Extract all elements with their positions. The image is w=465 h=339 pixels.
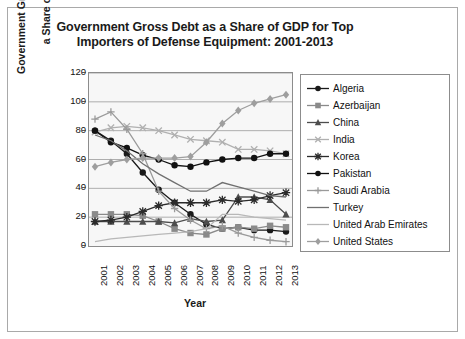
legend-marker-icon	[305, 168, 331, 179]
legend-item-label: Algeria	[333, 83, 364, 94]
legend-item-united-arab-emirates[interactable]: United Arab Emirates	[305, 216, 449, 233]
legend-item-pakistan[interactable]: Pakistan	[305, 165, 449, 182]
y-axis-title: Government Gross Debt as a Share of GDP	[22, 0, 46, 86]
chart-title-line-1: Government Gross Debt as a Share of GDP …	[40, 20, 370, 35]
legend-marker-icon	[305, 202, 331, 213]
data-series	[92, 91, 289, 171]
legend-item-united-states[interactable]: United States	[305, 233, 449, 250]
x-axis-tick-label: 2011	[257, 266, 268, 286]
x-axis-tick-label: 2009	[225, 265, 236, 286]
data-series	[91, 108, 289, 245]
x-axis-tick-label: 2013	[289, 265, 300, 286]
y-axis-tick-mark	[82, 159, 86, 160]
legend-marker-icon	[305, 219, 331, 230]
legend-item-china[interactable]: China	[305, 114, 449, 131]
y-axis-tick-label: 60	[60, 153, 86, 164]
legend-item-label: Saudi Arabia	[333, 185, 390, 196]
y-axis-ticks: 020406080100120	[54, 72, 86, 247]
plot-area-wrapper	[88, 72, 293, 247]
data-series	[92, 123, 289, 157]
y-axis-title-line-1: Government Gross Debt as	[15, 0, 28, 86]
legend-item-label: Azerbaijan	[333, 100, 380, 111]
legend-marker-icon	[305, 134, 331, 145]
legend-item-label: Pakistan	[333, 168, 371, 179]
chart-title-line-2: Importers of Defense Equipment: 2001-201…	[40, 35, 370, 50]
legend-item-turkey[interactable]: Turkey	[305, 199, 449, 216]
plot-area	[88, 72, 293, 247]
legend-item-algeria[interactable]: Algeria	[305, 80, 449, 97]
x-axis-tick-label: 2008	[209, 265, 220, 286]
chart-title: Government Gross Debt as a Share of GDP …	[40, 20, 370, 50]
chart-legend: AlgeriaAzerbaijanChinaIndiaKoreaPakistan…	[300, 74, 450, 252]
legend-item-azerbaijan[interactable]: Azerbaijan	[305, 97, 449, 114]
y-axis-tick-mark	[82, 216, 86, 217]
y-axis-tick-mark	[82, 187, 86, 188]
x-axis-tick-label: 2003	[130, 265, 141, 286]
x-axis-tick-label: 2006	[178, 265, 189, 286]
legend-item-korea[interactable]: Korea	[305, 148, 449, 165]
legend-marker-icon	[305, 117, 331, 128]
x-axis-tick-label: 2001	[98, 265, 109, 286]
legend-marker-icon	[305, 185, 331, 196]
legend-item-india[interactable]: India	[305, 131, 449, 148]
y-axis-tick-mark	[82, 245, 86, 246]
legend-item-label: Korea	[333, 151, 360, 162]
y-axis-title-line-2: a Share of GDP	[40, 0, 53, 86]
y-axis-tick-mark	[82, 101, 86, 102]
legend-marker-icon	[305, 236, 331, 247]
legend-item-label: Turkey	[333, 202, 363, 213]
y-axis-tick-mark	[82, 130, 86, 131]
y-axis-tick-mark	[82, 72, 86, 73]
x-axis-tick-label: 2012	[273, 265, 284, 286]
x-axis-title: Year	[100, 297, 290, 309]
legend-item-label: India	[333, 134, 355, 145]
legend-item-label: United Arab Emirates	[333, 219, 428, 230]
data-series-layer	[89, 73, 292, 246]
legend-marker-icon	[305, 100, 331, 111]
legend-item-label: United States	[333, 236, 393, 247]
x-axis-tick-label: 2007	[194, 265, 205, 286]
x-axis-tick-label: 2004	[146, 265, 157, 286]
x-axis-tick-label: 2010	[241, 265, 252, 286]
legend-marker-icon	[305, 151, 331, 162]
x-axis-ticks: 2001200220032004200520062007200820092010…	[88, 250, 293, 296]
legend-item-label: China	[333, 117, 359, 128]
chart-figure: Government Gross Debt as a Share of GDP …	[0, 0, 465, 339]
x-axis-tick-label: 2002	[114, 265, 125, 286]
legend-marker-icon	[305, 83, 331, 94]
x-axis-tick-label: 2005	[162, 265, 173, 286]
legend-item-saudi-arabia[interactable]: Saudi Arabia	[305, 182, 449, 199]
